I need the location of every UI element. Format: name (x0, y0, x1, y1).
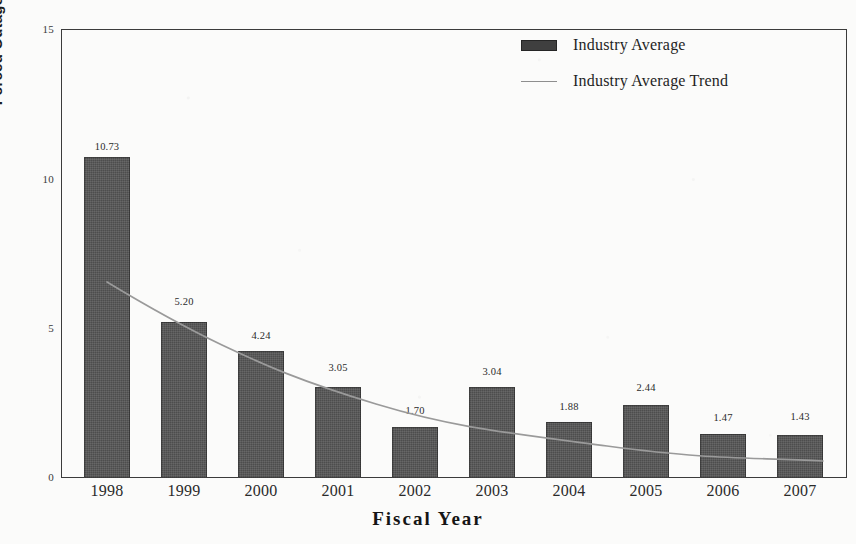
legend-item-industry-average[interactable]: Industry Average (521, 30, 686, 60)
chart-legend: Industry Average Industry Average Trend (521, 26, 841, 102)
bar-2000[interactable] (238, 351, 284, 478)
x-tick-label-2004: 2004 (539, 482, 599, 500)
legend-item-industry-average-trend[interactable]: Industry Average Trend (521, 66, 728, 96)
y-tick-label-5: 5 (26, 322, 54, 334)
y-axis-title: Forced Outage Rate (%) (0, 0, 5, 148)
x-tick-label-2002: 2002 (385, 482, 445, 500)
bar-value-2007: 1.43 (770, 411, 830, 422)
bar-value-2004: 1.88 (539, 401, 599, 412)
bar-value-2006: 1.47 (693, 412, 753, 423)
bar-2004[interactable] (546, 422, 592, 478)
x-tick-label-2003: 2003 (462, 482, 522, 500)
legend-label-industry-average: Industry Average (573, 36, 686, 54)
bar-value-1998: 10.73 (77, 141, 137, 152)
legend-label-industry-average-trend: Industry Average Trend (573, 72, 728, 90)
bar-swatch-icon (521, 40, 557, 51)
y-tick-label-15: 15 (26, 23, 54, 35)
x-tick-label-1999: 1999 (154, 482, 214, 500)
x-tick-label-2007: 2007 (770, 482, 830, 500)
x-tick-label-2006: 2006 (693, 482, 753, 500)
bar-2007[interactable] (777, 435, 823, 478)
bar-2002[interactable] (392, 427, 438, 478)
bar-1999[interactable] (161, 322, 207, 478)
line-swatch-icon (521, 76, 557, 87)
x-tick-label-2001: 2001 (308, 482, 368, 500)
y-tick-label-10: 10 (26, 173, 54, 185)
bar-2006[interactable] (700, 434, 746, 478)
x-tick-label-1998: 1998 (77, 482, 137, 500)
y-tick-label-0: 0 (26, 471, 54, 483)
bar-value-2005: 2.44 (616, 382, 676, 393)
x-axis-title: Fiscal Year (0, 508, 856, 530)
bar-1998[interactable] (84, 157, 130, 478)
bar-2001[interactable] (315, 387, 361, 478)
chart-page: Forced Outage Rate (%) 15 10 5 0 10.73 5… (0, 0, 856, 544)
bar-value-2003: 3.04 (462, 366, 522, 377)
bar-value-2000: 4.24 (231, 330, 291, 341)
bar-2005[interactable] (623, 405, 669, 478)
x-tick-label-2005: 2005 (616, 482, 676, 500)
bar-2003[interactable] (469, 387, 515, 478)
bar-value-2002: 1.70 (385, 405, 445, 416)
bar-value-2001: 3.05 (308, 362, 368, 373)
x-tick-label-2000: 2000 (231, 482, 291, 500)
bar-value-1999: 5.20 (154, 296, 214, 307)
